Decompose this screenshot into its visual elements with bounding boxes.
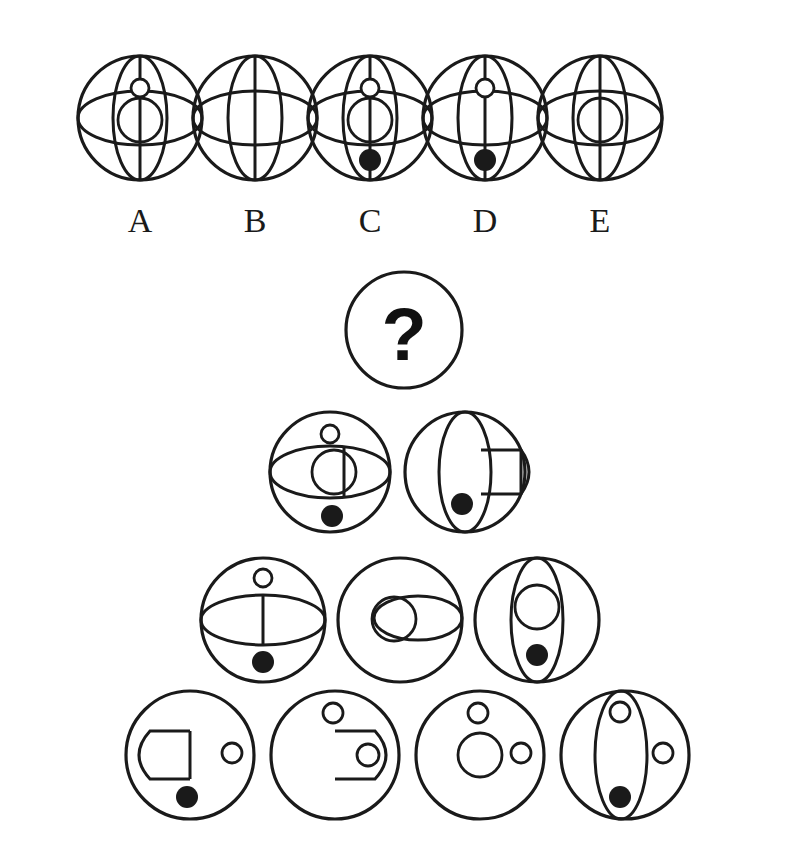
right-horizontal-ellipse (374, 596, 462, 640)
medium-circle-left (372, 597, 416, 641)
small-circle-right (511, 743, 531, 763)
pyramid-cell-4-3[interactable] (416, 691, 544, 819)
filled-dot-bottom (359, 149, 381, 171)
medium-circle-center (515, 585, 559, 629)
left-wedge (139, 731, 190, 779)
small-circle-top (361, 79, 379, 97)
small-circle-top (610, 702, 630, 722)
pyramid-cell-3-2[interactable] (338, 558, 462, 682)
pyramid-cell-2-2[interactable] (405, 412, 529, 532)
small-circle-right (222, 743, 242, 763)
pyramid-cell-3-1[interactable] (201, 558, 325, 682)
filled-dot-bottom (321, 505, 343, 527)
option-label-A: A (128, 202, 153, 239)
pyramid-cell-4-2[interactable] (271, 691, 399, 819)
small-circle-right (653, 743, 673, 763)
pyramid-cell-3-3[interactable] (475, 558, 599, 682)
filled-dot-bottom (526, 644, 548, 666)
outer-circle (338, 558, 462, 682)
pyramid-apex[interactable]: ? (346, 272, 462, 388)
filled-dot-bottom (176, 786, 198, 808)
option-label-B: B (244, 202, 267, 239)
pyramid-cell-2-1[interactable] (270, 412, 390, 532)
filled-dot-bottom (609, 786, 631, 808)
medium-circle-center (312, 450, 356, 494)
pyramid-row-2 (270, 412, 529, 532)
small-circle-top (254, 569, 272, 587)
puzzle-root: A B C (0, 0, 803, 853)
pyramid-cell-4-4[interactable] (561, 691, 689, 819)
option-E[interactable] (538, 56, 662, 180)
question-mark: ? (381, 293, 426, 376)
puzzle-canvas: A B C (0, 0, 803, 853)
filled-dot-bottom (252, 651, 274, 673)
pyramid-row-4 (126, 691, 689, 819)
option-A[interactable] (78, 56, 202, 180)
filled-dot-bottom (474, 149, 496, 171)
option-B[interactable] (193, 56, 317, 180)
option-D[interactable] (423, 56, 547, 180)
medium-circle-center (458, 733, 502, 777)
small-circle-top (476, 79, 494, 97)
pyramid-cell-4-1[interactable] (126, 691, 254, 819)
option-label-C: C (359, 202, 382, 239)
options-row: A B C (78, 56, 662, 239)
small-circle-top (131, 79, 149, 97)
small-circle-in-lens (357, 744, 379, 766)
filled-dot-bottom (451, 493, 473, 515)
small-circle-top (321, 425, 339, 443)
option-label-E: E (590, 202, 611, 239)
option-label-D: D (473, 202, 498, 239)
small-circle-top (323, 703, 343, 723)
option-C[interactable] (308, 56, 432, 180)
small-circle-top (468, 703, 488, 723)
horizontal-ellipse (270, 446, 390, 498)
pyramid-row-3 (201, 558, 599, 682)
